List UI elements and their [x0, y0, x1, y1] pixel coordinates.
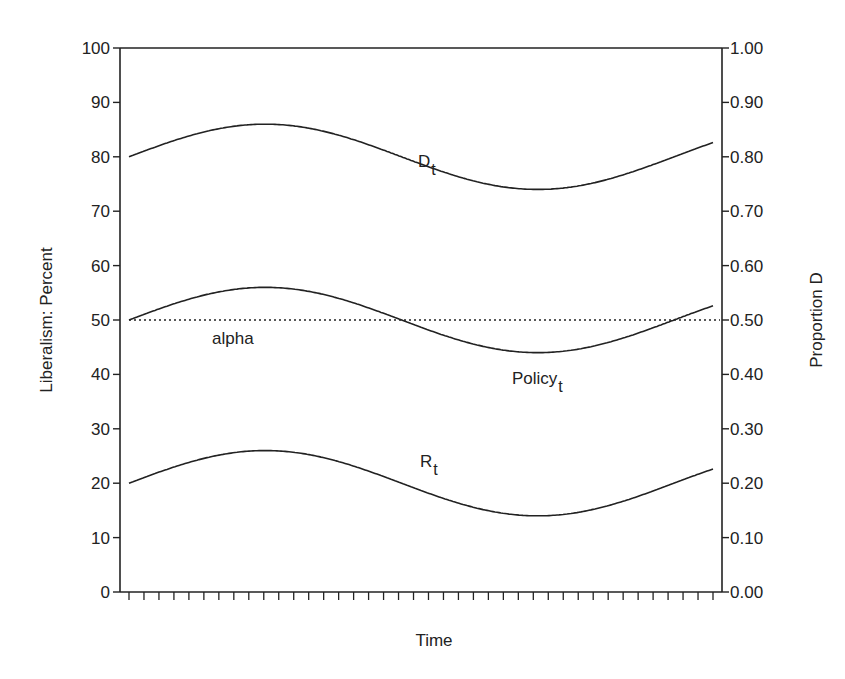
right-y-axis-title: Proportion D [807, 272, 826, 367]
left-y-tick-label: 70 [91, 202, 110, 221]
label-policy-t: Policyt [512, 369, 563, 395]
dual-axis-line-chart: 0102030405060708090100 0.000.100.200.300… [0, 0, 845, 679]
right-y-axis: 0.000.100.200.300.400.500.600.700.800.90… [722, 39, 763, 602]
left-y-tick-label: 50 [91, 311, 110, 330]
label-r-t: Rt [420, 452, 438, 478]
left-y-tick-label: 30 [91, 420, 110, 439]
left-y-tick-label: 10 [91, 529, 110, 548]
right-y-tick-label: 0.40 [730, 365, 763, 384]
right-y-tick-label: 0.50 [730, 311, 763, 330]
right-y-tick-label: 0.20 [730, 474, 763, 493]
x-axis [129, 592, 713, 600]
right-y-tick-label: 0.30 [730, 420, 763, 439]
left-y-tick-label: 90 [91, 93, 110, 112]
right-y-tick-label: 0.60 [730, 257, 763, 276]
left-y-tick-label: 40 [91, 365, 110, 384]
right-y-tick-label: 0.80 [730, 148, 763, 167]
right-y-tick-label: 0.10 [730, 529, 763, 548]
left-y-tick-label: 0 [101, 583, 110, 602]
right-y-tick-label: 0.90 [730, 93, 763, 112]
left-y-tick-label: 60 [91, 257, 110, 276]
left-y-tick-label: 100 [82, 39, 110, 58]
left-y-tick-label: 20 [91, 474, 110, 493]
right-y-tick-label: 0.00 [730, 583, 763, 602]
right-y-tick-label: 0.70 [730, 202, 763, 221]
label-d-t: Dt [418, 152, 436, 178]
left-y-axis-title: Liberalism: Percent [37, 247, 56, 393]
right-y-tick-label: 1.00 [730, 39, 763, 58]
x-axis-title: Time [415, 631, 452, 650]
label-alpha: alpha [212, 329, 254, 348]
left-y-axis: 0102030405060708090100 [82, 39, 120, 602]
left-y-tick-label: 80 [91, 148, 110, 167]
